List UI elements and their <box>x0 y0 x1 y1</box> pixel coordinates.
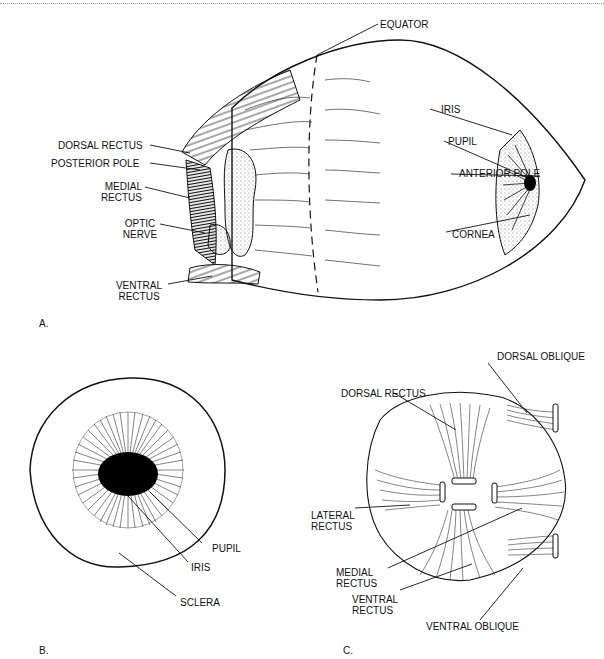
label-lateral-rectus: LATERAL RECTUS <box>311 510 355 532</box>
label-medial-rectus-c-line1: MEDIAL <box>336 567 373 578</box>
label-lateral-rectus-line2: RECTUS <box>311 521 352 532</box>
label-medial-rectus-c: MEDIAL RECTUS <box>336 567 377 589</box>
label-ventral-oblique: VENTRAL OBLIQUE <box>426 621 519 632</box>
figure-b-eye-front-drawing <box>0 0 604 659</box>
label-dorsal-rectus-c: DORSAL RECTUS <box>341 388 426 399</box>
label-dorsal-oblique: DORSAL OBLIQUE <box>497 351 585 362</box>
label-lateral-rectus-line1: LATERAL <box>311 510 355 521</box>
panel-label-b: B. <box>39 645 48 656</box>
label-ventral-rectus-c-line1: VENTRAL <box>352 594 398 605</box>
panel-label-c: C. <box>343 645 353 656</box>
label-sclera: SCLERA <box>180 597 220 608</box>
label-ventral-rectus-c-line2: RECTUS <box>352 605 393 616</box>
label-medial-rectus-c-line2: RECTUS <box>336 578 377 589</box>
label-pupil-b: PUPIL <box>212 543 241 554</box>
label-iris-b: IRIS <box>191 562 210 573</box>
label-ventral-rectus-c: VENTRAL RECTUS <box>352 594 398 616</box>
